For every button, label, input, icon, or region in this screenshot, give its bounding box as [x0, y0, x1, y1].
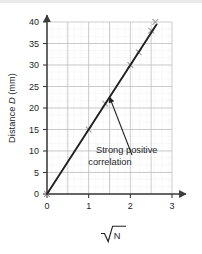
y-tick-label: 15	[29, 125, 39, 135]
annotation-line-1: Strong positive	[96, 145, 158, 155]
scatter-chart: 0 5 10 15 20 25 30 35 40 0 1 2 3 Distanc…	[0, 0, 202, 254]
y-tick-label: 20	[29, 103, 39, 113]
x-tick-label: 2	[128, 201, 133, 211]
y-tick-label: 5	[34, 168, 39, 178]
y-tick-label: 40	[29, 17, 39, 27]
y-tick-label: 30	[29, 60, 39, 70]
y-tick-label: 0	[34, 189, 39, 199]
x-axis-title: N	[101, 226, 126, 241]
y-tick-label: 10	[29, 146, 39, 156]
annotation-line-2: correlation	[88, 157, 131, 167]
y-axis-tick-labels: 0 5 10 15 20 25 30 35 40	[29, 17, 39, 199]
x-tick-label: 1	[86, 201, 91, 211]
svg-text:Distance D (mm): Distance D (mm)	[7, 73, 17, 143]
y-axis-title-suffix: (mm)	[7, 73, 17, 97]
y-axis-title: Distance D (mm)	[7, 73, 17, 143]
x-tick-label: 0	[44, 201, 49, 211]
figure-container: 0 5 10 15 20 25 30 35 40 0 1 2 3 Distanc…	[0, 0, 202, 254]
x-axis-title-radicand: N	[114, 231, 121, 241]
y-tick-label: 25	[29, 82, 39, 92]
x-axis-tick-labels: 0 1 2 3	[44, 201, 174, 211]
y-tick-label: 35	[29, 39, 39, 49]
x-tick-label: 3	[169, 201, 174, 211]
y-axis-title-prefix: Distance	[7, 104, 17, 143]
